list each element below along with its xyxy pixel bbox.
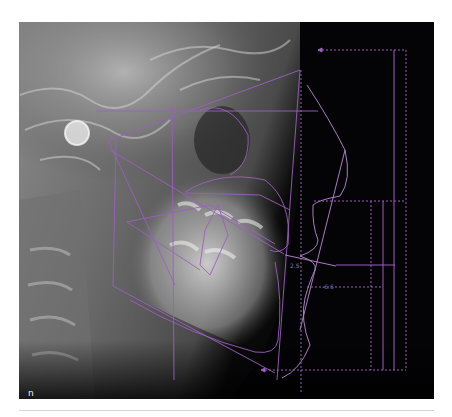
panel-label: n bbox=[28, 388, 34, 398]
chin-measurement-label: -6.6 bbox=[322, 283, 334, 290]
bottom-divider bbox=[19, 410, 434, 411]
xray-background bbox=[19, 22, 434, 399]
lip-measurement-label: 2.5 bbox=[290, 262, 300, 269]
cephalometric-radiograph: 2.5 -6.6 n bbox=[19, 22, 434, 399]
